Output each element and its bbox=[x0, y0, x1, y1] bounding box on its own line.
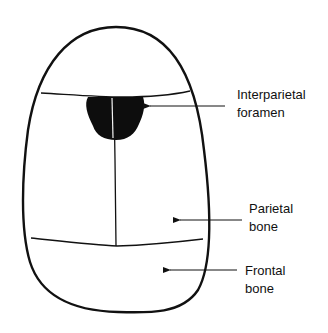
coronal-suture bbox=[31, 238, 203, 246]
label-line: bone bbox=[249, 218, 293, 236]
label-line: foramen bbox=[237, 104, 306, 122]
label-parietal-bone: Parietal bone bbox=[249, 200, 293, 236]
label-line: bone bbox=[245, 280, 285, 298]
label-line: Parietal bbox=[249, 200, 293, 218]
label-interparietal-foramen: Interparietal foramen bbox=[237, 86, 306, 122]
label-line: Interparietal bbox=[237, 86, 306, 104]
label-frontal-bone: Frontal bone bbox=[245, 262, 285, 298]
label-line: Frontal bbox=[245, 262, 285, 280]
lambdoid-suture bbox=[41, 91, 190, 97]
interparietal-foramen bbox=[86, 97, 144, 140]
